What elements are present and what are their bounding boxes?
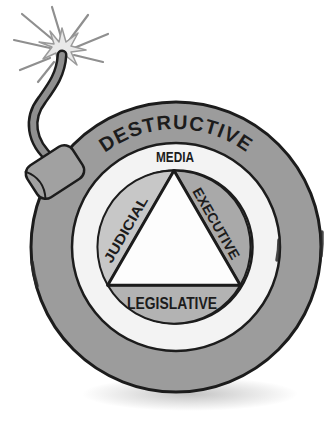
- legislative-label: LEGISLATIVE: [127, 295, 217, 312]
- media-label: MEDIA: [156, 149, 194, 165]
- sketch-mark: [277, 240, 279, 260]
- bomb-icon: DESTRUCTIVE MEDIA JUDICIAL EXECUTIVE LEG…: [0, 0, 330, 425]
- bomb-illustration-canvas: DESTRUCTIVE MEDIA JUDICIAL EXECUTIVE LEG…: [0, 0, 330, 425]
- sketch-mark: [321, 232, 322, 256]
- spark-ray: [74, 55, 103, 62]
- spark-ray: [20, 58, 50, 70]
- spark-ray: [74, 34, 108, 48]
